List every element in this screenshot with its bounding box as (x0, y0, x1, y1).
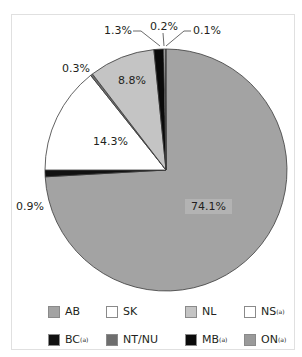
legend-item-nl: NL (185, 306, 216, 318)
legend-swatch (48, 334, 60, 346)
slice-label-ab: 74.1% (185, 199, 232, 214)
pie-slices (45, 49, 287, 291)
legend-item-ab: AB (48, 306, 80, 318)
legend-item-on: ON(a) (244, 334, 286, 346)
slice-label-nl: 8.8% (118, 75, 146, 87)
legend-label: BC (65, 334, 80, 346)
slice-label-mb: 1.3% (104, 25, 132, 37)
legend-item-nt-nu: NT/NU (106, 334, 158, 346)
slice-label-sk: 14.3% (93, 136, 128, 148)
legend-swatch (185, 306, 197, 318)
legend-label: SK (123, 306, 137, 318)
slice-label-nt-nu: 0.3% (62, 63, 90, 75)
leader-line (163, 33, 164, 46)
legend-swatch (106, 334, 118, 346)
legend-item-ns: NS(a) (244, 306, 285, 318)
leader-line (133, 31, 160, 46)
legend-item-sk: SK (106, 306, 137, 318)
slice-label-ns: 0.2% (150, 21, 178, 33)
pie-chart (0, 0, 302, 357)
legend-label: ON (261, 334, 278, 346)
legend-label: NL (202, 306, 216, 318)
legend-swatch (244, 334, 256, 346)
legend-item-bc: BC(a) (48, 334, 88, 346)
leader-line (166, 31, 191, 46)
legend-label: AB (65, 306, 80, 318)
legend-swatch (106, 306, 118, 318)
slice-label-on: 0.1% (193, 25, 221, 37)
slice-label-bc: 0.9% (16, 201, 44, 213)
legend-label: MB (202, 334, 219, 346)
legend-item-mb: MB(a) (185, 334, 227, 346)
legend-swatch (244, 306, 256, 318)
legend-label: NT/NU (123, 334, 158, 346)
legend-swatch (185, 334, 197, 346)
legend-swatch (48, 306, 60, 318)
legend-label: NS (261, 306, 276, 318)
leader-lines (133, 31, 191, 46)
